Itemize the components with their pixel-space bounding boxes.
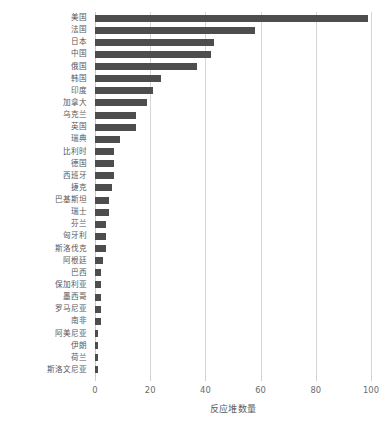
x-axis-tick-labels: 020406080100 [95, 385, 371, 399]
bar-row [95, 36, 371, 48]
category-label: 阿美尼亚 [0, 330, 87, 338]
bar-row [95, 267, 371, 279]
category-label: 法国 [0, 26, 87, 34]
bar-row [95, 206, 371, 218]
category-label: 巴西 [0, 269, 87, 277]
bar [95, 160, 114, 167]
bar-row [95, 121, 371, 133]
x-tick-label: 60 [255, 385, 266, 395]
x-tick-label: 80 [310, 385, 321, 395]
category-label: 德国 [0, 160, 87, 168]
category-label: 西班牙 [0, 172, 87, 180]
bar [95, 172, 114, 179]
bar-row [95, 279, 371, 291]
category-label: 瑞典 [0, 135, 87, 143]
bar-row [95, 291, 371, 303]
category-label: 加拿大 [0, 99, 87, 107]
bar [95, 197, 109, 204]
bar [95, 294, 101, 301]
category-label: 英国 [0, 123, 87, 131]
bar [95, 306, 101, 313]
category-label: 南非 [0, 317, 87, 325]
category-label: 伊朗 [0, 342, 87, 350]
bar [95, 136, 120, 143]
category-label: 俄国 [0, 63, 87, 71]
category-label: 荷兰 [0, 354, 87, 362]
x-tick-label: 20 [145, 385, 156, 395]
x-axis-ticks [95, 376, 371, 383]
bar-row [95, 315, 371, 327]
category-label: 印度 [0, 87, 87, 95]
x-tick-label: 0 [92, 385, 97, 395]
category-label: 墨西哥 [0, 293, 87, 301]
category-label: 斯洛文尼亚 [0, 366, 87, 374]
bar [95, 51, 211, 58]
x-tick-label: 100 [363, 385, 379, 395]
category-label: 瑞士 [0, 208, 87, 216]
bar-row [95, 218, 371, 230]
category-label: 巴基斯坦 [0, 196, 87, 204]
bar-row [95, 48, 371, 60]
bar [95, 281, 101, 288]
bar [95, 209, 109, 216]
bar-row [95, 133, 371, 145]
bar [95, 318, 101, 325]
bar-row [95, 170, 371, 182]
bar-row [95, 182, 371, 194]
bar [95, 99, 147, 106]
category-label: 比利时 [0, 148, 87, 156]
bar-row [95, 340, 371, 352]
bar-row [95, 24, 371, 36]
x-tick-100 [371, 376, 372, 381]
bar-row [95, 194, 371, 206]
bar [95, 354, 98, 361]
bar-row [95, 61, 371, 73]
bar-row [95, 243, 371, 255]
bar [95, 257, 103, 264]
bar-row [95, 145, 371, 157]
category-axis-labels: 美国法国日本中国俄国韩国印度加拿大乌克兰英国瑞典比利时德国西班牙捷克巴基斯坦瑞士… [0, 12, 91, 376]
bar-row [95, 303, 371, 315]
bar [95, 124, 136, 131]
bar [95, 184, 112, 191]
bar [95, 63, 197, 70]
x-tick-20 [150, 376, 151, 381]
bar-row [95, 97, 371, 109]
bar [95, 15, 368, 22]
bar [95, 245, 106, 252]
x-axis-title: 反应堆数量 [95, 402, 371, 415]
bar [95, 366, 98, 373]
bar-row [95, 255, 371, 267]
bar-row [95, 158, 371, 170]
bar [95, 87, 153, 94]
bar [95, 342, 98, 349]
bar-row [95, 12, 371, 24]
bar-row [95, 230, 371, 242]
x-tick-label: 40 [200, 385, 211, 395]
x-tick-60 [261, 376, 262, 381]
category-label: 匈牙利 [0, 232, 87, 240]
bar-row [95, 73, 371, 85]
category-label: 乌克兰 [0, 111, 87, 119]
bar [95, 233, 106, 240]
bar [95, 221, 106, 228]
bar [95, 269, 101, 276]
bar [95, 330, 98, 337]
category-label: 罗马尼亚 [0, 305, 87, 313]
plot-area [95, 12, 371, 376]
x-tick-40 [205, 376, 206, 381]
bar [95, 75, 161, 82]
bar-row [95, 364, 371, 376]
category-label: 芬兰 [0, 220, 87, 228]
category-label: 阿根廷 [0, 257, 87, 265]
bar [95, 39, 214, 46]
x-tick-80 [316, 376, 317, 381]
bar [95, 112, 136, 119]
x-tick-0 [95, 376, 96, 381]
bar-row [95, 352, 371, 364]
category-label: 美国 [0, 14, 87, 22]
category-label: 日本 [0, 38, 87, 46]
bars-layer [95, 12, 371, 376]
gridline-100 [371, 12, 372, 376]
